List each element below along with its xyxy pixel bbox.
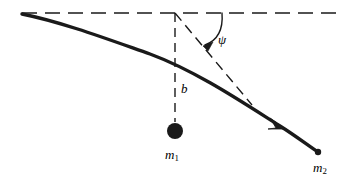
projectile-mass-subscript: 2 xyxy=(322,166,326,176)
trajectory-direction-arrowhead xyxy=(268,118,285,129)
scattering-diagram: ψ b m1 m2 xyxy=(0,0,347,181)
projectile-end-dot xyxy=(315,149,321,155)
impact-parameter-label: b xyxy=(181,82,188,95)
projectile-mass-label: m2 xyxy=(313,161,327,176)
target-particle-dot xyxy=(167,123,183,139)
target-mass-label: m1 xyxy=(165,148,179,163)
scattering-angle-label: ψ xyxy=(218,33,226,46)
projectile-mass-symbol: m xyxy=(313,160,322,175)
target-mass-symbol: m xyxy=(165,147,174,162)
target-mass-subscript: 1 xyxy=(174,153,178,163)
